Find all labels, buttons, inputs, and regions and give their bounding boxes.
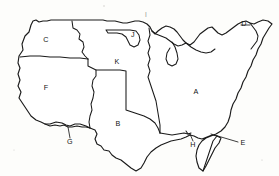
region-label-h: H [190,140,195,149]
region-label-g: G [67,137,73,146]
region-label-k: K [115,57,120,66]
region-label-e: E [241,138,246,147]
region-label-f: F [44,83,49,92]
region-label-j: J [131,30,135,39]
scan-speckle [14,150,15,151]
us-national-outline [18,20,272,171]
region-label-i: I [145,11,147,18]
region-label-d: D [241,19,246,28]
region-label-b: B [116,119,121,128]
scan-speckle [261,159,262,160]
us-region-map-figure: A B C D E F G H I J K [0,0,279,176]
region-label-a: A [194,87,199,96]
region-label-c: C [43,35,48,44]
scan-speckle [103,5,104,6]
map-canvas: A B C D E F G H I J K [0,0,279,176]
